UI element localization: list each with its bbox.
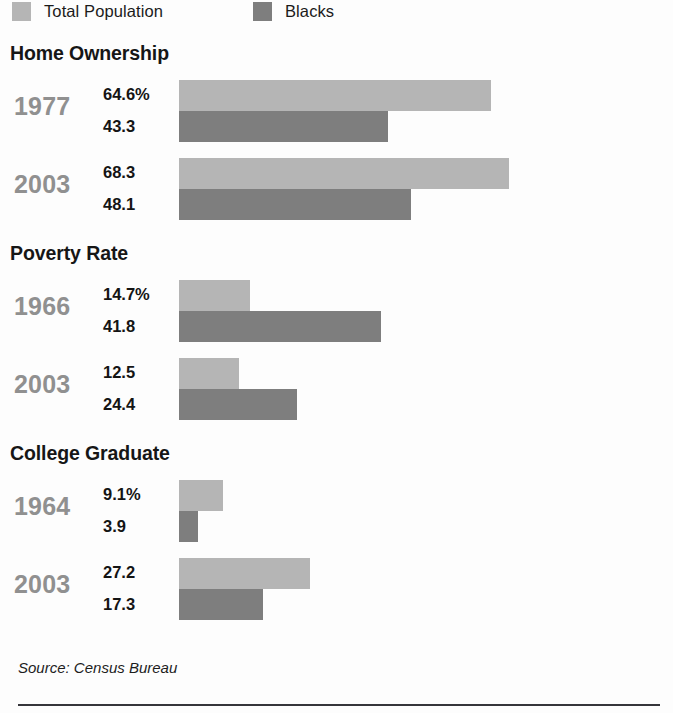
group-row: 2003 27.2 17.3 xyxy=(0,558,673,620)
value-label-black: 24.4 xyxy=(103,396,135,413)
group-year-label: 2003 xyxy=(14,572,70,597)
value-label-total: 9.1% xyxy=(103,486,141,503)
bar-blacks xyxy=(179,311,381,342)
value-label-black: 43.3 xyxy=(103,118,135,135)
legend-item-blacks: Blacks xyxy=(253,2,334,21)
legend-swatch-light-icon xyxy=(12,2,31,21)
bar-total-population xyxy=(179,480,223,511)
bar-blacks xyxy=(179,111,388,142)
legend-label-blacks: Blacks xyxy=(285,2,334,21)
census-comparison-chart: Total Population Blacks Home Ownership 1… xyxy=(0,0,673,713)
value-label-black: 3.9 xyxy=(103,518,126,535)
legend-swatch-dark-icon xyxy=(253,2,272,21)
group-year-label: 2003 xyxy=(14,372,70,397)
legend-item-total-population: Total Population xyxy=(12,2,163,21)
value-label-black: 48.1 xyxy=(103,196,135,213)
group-year-label: 1966 xyxy=(14,294,70,319)
value-label-black: 17.3 xyxy=(103,596,135,613)
bar-total-population xyxy=(179,158,509,189)
section-poverty-rate: Poverty Rate 1966 14.7% 41.8 2003 12.5 2… xyxy=(0,242,673,432)
group-row: 2003 12.5 24.4 xyxy=(0,358,673,420)
section-college-graduate: College Graduate 1964 9.1% 3.9 2003 27.2… xyxy=(0,442,673,632)
value-label-total: 12.5 xyxy=(103,364,135,381)
value-label-total: 27.2 xyxy=(103,564,135,581)
bar-blacks xyxy=(179,589,263,620)
value-label-black: 41.8 xyxy=(103,318,135,335)
value-label-total: 68.3 xyxy=(103,164,135,181)
group-row: 2003 68.3 48.1 xyxy=(0,158,673,220)
bar-blacks xyxy=(179,389,297,420)
bar-total-population xyxy=(179,280,250,311)
bar-total-population xyxy=(179,80,491,111)
group-row: 1966 14.7% 41.8 xyxy=(0,280,673,342)
legend-label-total-population: Total Population xyxy=(44,2,163,21)
section-title: Home Ownership xyxy=(10,42,169,65)
chart-legend: Total Population Blacks xyxy=(0,0,673,32)
source-note: Source: Census Bureau xyxy=(18,659,177,676)
bar-blacks xyxy=(179,189,411,220)
value-label-total: 14.7% xyxy=(103,286,150,303)
group-row: 1964 9.1% 3.9 xyxy=(0,480,673,542)
group-year-label: 1964 xyxy=(14,494,70,519)
bottom-divider xyxy=(18,704,660,706)
bar-total-population xyxy=(179,558,310,589)
section-title: Poverty Rate xyxy=(10,242,128,265)
bar-blacks xyxy=(179,511,198,542)
value-label-total: 64.6% xyxy=(103,86,150,103)
group-year-label: 2003 xyxy=(14,172,70,197)
section-home-ownership: Home Ownership 1977 64.6% 43.3 2003 68.3… xyxy=(0,42,673,232)
group-year-label: 1977 xyxy=(14,94,70,119)
bar-total-population xyxy=(179,358,239,389)
section-title: College Graduate xyxy=(10,442,170,465)
group-row: 1977 64.6% 43.3 xyxy=(0,80,673,142)
